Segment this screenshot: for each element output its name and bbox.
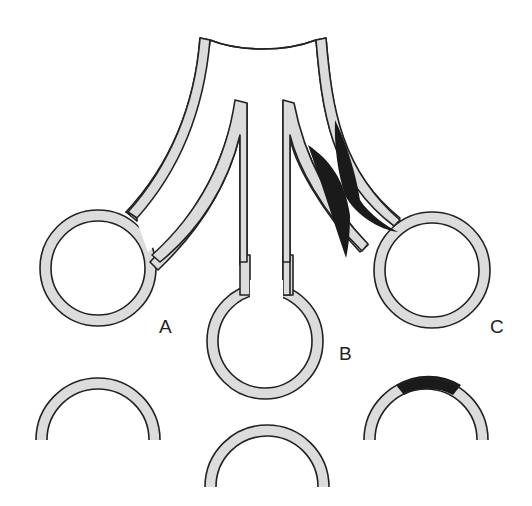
diagram-canvas: A B C — [0, 0, 532, 506]
bottom-arc-b — [205, 425, 329, 487]
label-a: A — [159, 316, 172, 338]
bottom-arc-c — [364, 376, 488, 440]
label-c: C — [490, 316, 504, 338]
bottom-arc-a — [36, 378, 160, 440]
label-b: B — [339, 343, 352, 365]
branching-structure-diagram — [0, 0, 532, 506]
